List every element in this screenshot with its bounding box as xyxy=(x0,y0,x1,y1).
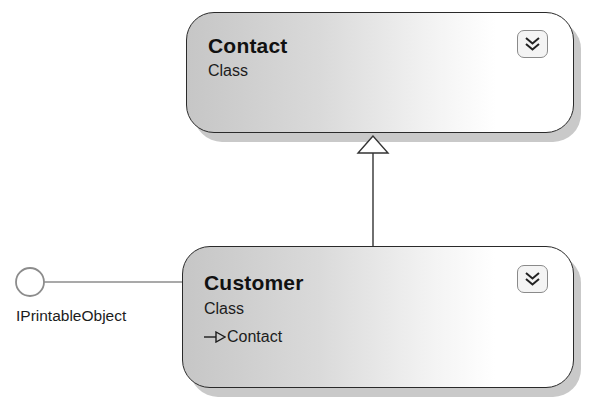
interface-label: IPrintableObject xyxy=(16,307,126,325)
expand-collapse-button[interactable] xyxy=(517,30,548,58)
class-shape-customer[interactable]: Customer Class Contact xyxy=(182,246,574,388)
interface-lollipop-icon[interactable] xyxy=(16,268,44,296)
class-shape-contact[interactable]: Contact Class xyxy=(186,12,574,133)
base-class-name: Contact xyxy=(227,328,282,345)
inheritance-arrow-icon xyxy=(204,331,226,343)
class-name: Contact xyxy=(208,34,288,58)
class-name: Customer xyxy=(204,271,304,295)
class-stereotype: Class xyxy=(208,62,248,80)
double-chevron-down-icon xyxy=(524,271,541,287)
base-class-line: Contact xyxy=(204,328,282,346)
class-stereotype: Class xyxy=(204,300,244,318)
double-chevron-down-icon xyxy=(524,36,541,52)
expand-collapse-button[interactable] xyxy=(517,265,548,293)
